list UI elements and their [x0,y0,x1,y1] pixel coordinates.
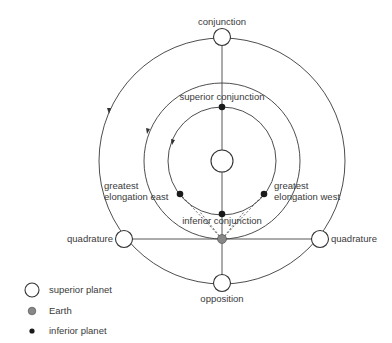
legend-label-earth: Earth [49,305,72,316]
label-greatest-elongation-west-line2: elongation west [274,191,340,202]
planetary-configuration-diagram: conjunction superior conjunction greates… [0,0,392,343]
label-inferior-conjunction: inferior conjunction [182,215,262,226]
superior-planet-quadrature-left [116,231,133,248]
inner-orbit-arrow-icon [171,139,175,145]
inferior-planet-elongation-west [261,191,268,198]
label-quadrature-left: quadrature [67,233,113,244]
inferior-planet-superior-conjunction [219,104,226,111]
inferior-planet-elongation-east [177,191,184,198]
superior-planet-conjunction [214,29,231,46]
legend-label-inferior-planet: inferior planet [49,325,107,336]
legend-inferior-planet-icon [29,328,34,333]
earth-icon [218,235,227,244]
legend-superior-planet-icon [25,283,39,297]
label-opposition: opposition [200,293,243,304]
legend: superior planet Earth inferior planet [25,283,112,336]
outer-orbit-arrow-icon [107,108,111,114]
legend-label-superior-planet: superior planet [49,284,112,295]
sun-icon [211,150,233,172]
superior-planet-opposition [214,275,231,292]
label-conjunction: conjunction [198,16,246,27]
label-superior-conjunction: superior conjunction [179,91,264,102]
legend-earth-icon [28,307,36,315]
superior-planet-quadrature-right [312,231,329,248]
label-quadrature-right: quadrature [331,233,377,244]
label-greatest-elongation-west-line1: greatest [274,180,309,191]
label-greatest-elongation-east-line1: greatest [104,180,139,191]
label-greatest-elongation-east-line2: elongation east [104,191,169,202]
